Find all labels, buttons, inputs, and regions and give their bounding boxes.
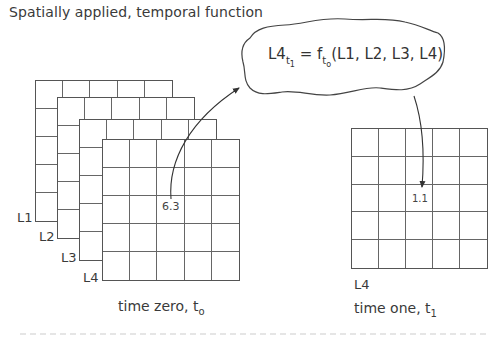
formula-lhs-sub: t1	[286, 55, 295, 66]
clipped-caption-line	[20, 331, 490, 337]
formula-args: (L1, L2, L3, L4)	[331, 45, 443, 63]
diagram-canvas: Spatially applied, temporal function L1 …	[0, 0, 504, 337]
formula-f-sub: to	[322, 55, 331, 66]
formula-text: L4t1 = fto(L1, L2, L3, L4)	[268, 45, 443, 63]
arrow-t0-to-function	[171, 88, 239, 199]
formula-lhs: L4	[268, 45, 286, 63]
arrow-function-to-t1	[414, 96, 423, 187]
formula-equals-f: = f	[295, 45, 322, 63]
